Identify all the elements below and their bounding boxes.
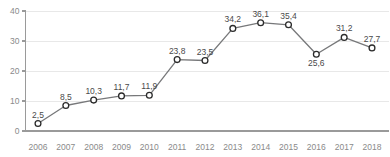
x-axis-tick-label: 2015: [279, 142, 298, 152]
x-axis-tick-label: 2008: [84, 142, 103, 152]
data-point-label: 36,1: [252, 9, 269, 19]
data-point-marker[interactable]: [174, 57, 180, 63]
data-point-marker[interactable]: [369, 45, 375, 51]
data-point-label: 10,3: [85, 86, 102, 96]
data-point-marker[interactable]: [119, 93, 125, 99]
x-axis-tick-label: 2018: [363, 142, 382, 152]
data-point-marker[interactable]: [146, 92, 152, 98]
series-line: [38, 23, 372, 124]
y-axis-tick-label: 0: [15, 126, 20, 136]
x-axis-tick-label: 2012: [196, 142, 215, 152]
x-axis-tick-label: 2009: [112, 142, 131, 152]
y-axis-tick-label: 40: [10, 6, 20, 16]
data-point-label: 31,2: [336, 23, 353, 33]
data-point-marker[interactable]: [35, 121, 41, 127]
data-series: [38, 23, 372, 124]
y-axis-tick-label: 20: [10, 66, 20, 76]
x-axis-tick-label: 2010: [140, 142, 159, 152]
line-chart: 010203040 200620072008200920102011201220…: [0, 0, 390, 157]
data-point-label: 23,5: [197, 47, 214, 57]
data-point-label: 27,7: [364, 34, 381, 44]
data-point-label: 23,8: [169, 46, 186, 56]
y-axis-tick-labels: 010203040: [10, 6, 20, 136]
data-point-label: 2,5: [32, 110, 44, 120]
data-point-label: 11,7: [114, 82, 130, 92]
data-point-markers: [35, 20, 375, 127]
data-point-marker[interactable]: [202, 58, 208, 64]
data-point-marker[interactable]: [63, 103, 69, 109]
y-axis-tick-label: 30: [10, 36, 20, 46]
data-point-marker[interactable]: [341, 35, 347, 41]
x-axis-tick-label: 2007: [56, 142, 75, 152]
chart-canvas: 010203040 200620072008200920102011201220…: [0, 0, 390, 157]
x-axis-tick-labels: 2006200720082009201020112012201320142015…: [29, 142, 382, 152]
data-point-marker[interactable]: [258, 20, 264, 26]
data-point-label: 8,5: [60, 92, 72, 102]
data-point-labels: 2,58,510,311,711,923,823,534,236,135,425…: [32, 9, 380, 120]
x-axis-tick-label: 2013: [223, 142, 242, 152]
data-point-label: 35,4: [280, 11, 297, 21]
data-point-marker[interactable]: [286, 22, 292, 28]
data-point-label: 11,9: [141, 81, 157, 91]
x-axis-tick-label: 2017: [335, 142, 354, 152]
x-axis-tick-label: 2014: [251, 142, 270, 152]
x-axis-tick-label: 2016: [307, 142, 326, 152]
data-point-label: 34,2: [225, 14, 242, 24]
x-axis-tick-label: 2011: [168, 142, 187, 152]
y-axis-tick-label: 10: [10, 96, 20, 106]
data-point-label: 25,6: [308, 58, 325, 68]
x-axis-tick-label: 2006: [29, 142, 48, 152]
data-point-marker[interactable]: [230, 26, 236, 32]
data-point-marker[interactable]: [313, 51, 319, 57]
data-point-marker[interactable]: [91, 97, 97, 103]
